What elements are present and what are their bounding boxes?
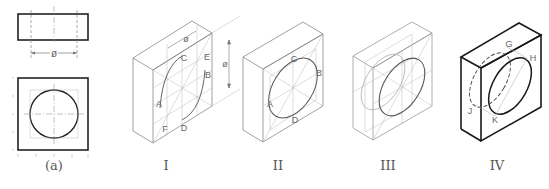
dim-label-diameter: ø xyxy=(50,48,58,59)
point-label-f-i: F xyxy=(162,124,168,134)
step-ii-drawing xyxy=(243,22,327,142)
front-view xyxy=(12,78,88,157)
point-label-d-i: D xyxy=(181,123,188,133)
point-label-a-ii: A xyxy=(267,99,273,109)
point-label-e-i: E xyxy=(204,52,210,62)
label-step-iv: IV xyxy=(490,158,505,173)
label-step-iii: III xyxy=(380,158,395,173)
point-label-g-iv: G xyxy=(505,39,512,49)
dim-height-label-i: ø xyxy=(222,59,228,69)
label-step-ii: II xyxy=(273,158,283,173)
step-iv-drawing xyxy=(461,23,541,141)
point-label-d-ii: D xyxy=(292,115,299,125)
point-label-j-iv: J xyxy=(468,106,473,116)
point-label-h-iv: H xyxy=(530,53,537,63)
point-label-c-i: C xyxy=(181,53,188,63)
step-iii-drawing xyxy=(352,22,434,140)
dim-label-i: ø xyxy=(183,34,189,44)
point-label-b-i: B xyxy=(205,70,211,80)
label-step-i: I xyxy=(163,158,168,173)
point-label-a-i: A xyxy=(156,99,162,109)
point-label-k-iv: K xyxy=(492,115,498,125)
point-label-b-ii: B xyxy=(316,68,322,78)
point-label-c-ii: C xyxy=(291,54,298,64)
label-a: (a) xyxy=(45,158,63,173)
